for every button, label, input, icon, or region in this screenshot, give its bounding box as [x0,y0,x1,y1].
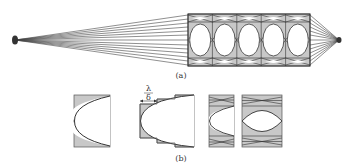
panel-b-half-cell [209,95,234,147]
panel-b-label: (b) [175,154,186,163]
lens-array-box [188,14,310,66]
panel-a-label: (a) [175,71,186,80]
sink-dot [337,37,342,43]
lambda-over-delta-annotation: λ δ [140,84,157,103]
panel-b-full-cell [242,95,282,147]
delta-symbol: δ [146,93,151,102]
source-dot [12,36,18,45]
panel-b-parabola-single [71,95,110,147]
fan-lines-left [15,15,188,65]
diagram-canvas: (a) λ δ [0,0,354,165]
fan-lines-right [310,15,339,65]
panel-b-stepped-parabola [140,95,194,147]
